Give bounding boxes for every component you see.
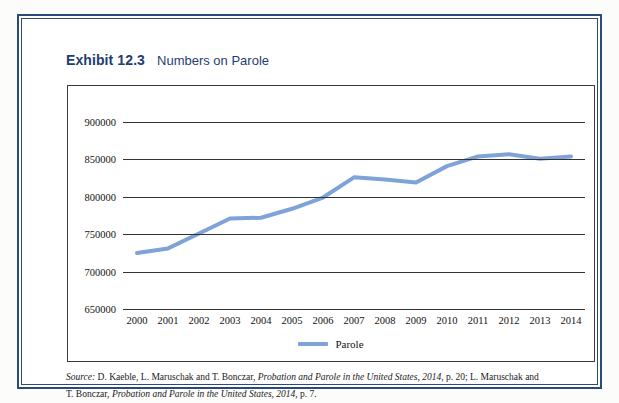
exhibit-page: Exhibit 12.3 Numbers on Parole 650000700…	[0, 0, 619, 403]
x-axis-tick-label: 2008	[375, 315, 396, 326]
y-axis-tick-label: 900000	[85, 117, 117, 128]
x-axis-tick-label: 2007	[344, 315, 365, 326]
legend-label-parole: Parole	[335, 338, 363, 350]
x-axis-tick-label: 2012	[499, 315, 520, 326]
gridline-850000	[123, 159, 585, 160]
exhibit-title-row: Exhibit 12.3 Numbers on Parole	[66, 52, 269, 68]
source-line2-italic: Probation and Parole in the United State…	[112, 389, 295, 399]
x-axis-tick-label: 2001	[158, 315, 179, 326]
x-axis-tick-label: 2004	[251, 315, 272, 326]
source-prefix: Source:	[66, 372, 95, 382]
parole-line-series	[123, 122, 585, 309]
chart-legend: Parole	[68, 338, 594, 350]
x-axis-tick-label: 2014	[561, 315, 582, 326]
gridline-650000	[123, 309, 585, 310]
x-axis-tick-label: 2002	[189, 315, 210, 326]
gridline-900000	[123, 122, 585, 123]
gridline-700000	[123, 272, 585, 273]
source-line1-a: D. Kaeble, L. Maruschak and T. Bonczar,	[95, 372, 258, 382]
source-line1-italic: Probation and Parole in the United State…	[258, 372, 441, 382]
source-line2-a: T. Bonczar,	[66, 389, 112, 399]
exhibit-inner-border: Exhibit 12.3 Numbers on Parole 650000700…	[21, 18, 598, 385]
y-axis-tick-label: 700000	[85, 266, 117, 277]
y-axis-tick-label: 800000	[85, 191, 117, 202]
y-axis-tick-label: 650000	[85, 304, 117, 315]
x-axis-tick-label: 2006	[313, 315, 334, 326]
page-title: Numbers on Parole	[157, 53, 269, 68]
gridline-800000	[123, 197, 585, 198]
chart-plot-area: 6500007000007500008000008500009000002000…	[123, 122, 585, 309]
exhibit-number-label: Exhibit 12.3	[66, 52, 145, 68]
x-axis-tick-label: 2009	[406, 315, 427, 326]
x-axis-tick-label: 2003	[220, 315, 241, 326]
y-axis-tick-label: 750000	[85, 229, 117, 240]
x-axis-tick-label: 2010	[437, 315, 458, 326]
source-citation: Source: D. Kaeble, L. Maruschak and T. B…	[66, 369, 591, 402]
chart-container: 6500007000007500008000008500009000002000…	[67, 85, 595, 362]
x-axis-tick-label: 2011	[468, 315, 489, 326]
source-line2-b: , p. 7.	[295, 389, 316, 399]
gridline-750000	[123, 234, 585, 235]
x-axis-tick-label: 2005	[282, 315, 303, 326]
source-line1-b: , p. 20; L. Maruschak and	[441, 372, 539, 382]
x-axis-tick-label: 2000	[127, 315, 148, 326]
y-axis-tick-label: 850000	[85, 154, 117, 165]
x-axis-tick-label: 2013	[530, 315, 551, 326]
legend-swatch-parole	[298, 342, 328, 346]
series-line-parole	[137, 154, 571, 253]
